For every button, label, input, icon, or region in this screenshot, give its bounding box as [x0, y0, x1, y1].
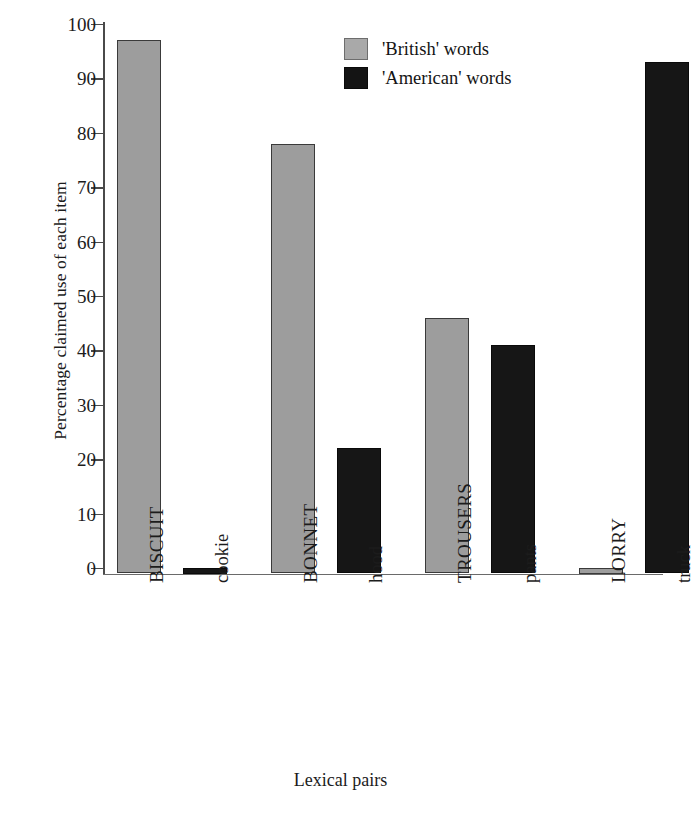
bar-pants [491, 345, 535, 574]
y-tick-label: 10 [77, 504, 96, 523]
legend-label-american: 'American' words [382, 68, 511, 89]
x-axis-title: Lexical pairs [0, 770, 681, 791]
bar-truck [645, 62, 689, 573]
bar-biscuit [117, 40, 161, 573]
y-tick-label: 0 [87, 559, 97, 578]
x-tick-label-biscuit: BISCUIT [147, 506, 166, 583]
legend-item-american: 'American' words [344, 67, 511, 89]
x-tick-label-trousers: TROUSERS [455, 483, 474, 583]
y-tick-label: 50 [77, 287, 96, 306]
y-axis-line [103, 22, 105, 575]
y-tick-label: 20 [77, 450, 96, 469]
x-tick-label-pants: pants [521, 544, 540, 583]
x-tick-label-truck: truck [675, 545, 694, 583]
y-tick-label: 40 [77, 341, 96, 360]
legend-swatch-british-icon [344, 38, 368, 60]
legend-swatch-american-icon [344, 67, 368, 89]
x-tick-label-hood: hood [367, 546, 386, 583]
x-tick-label-lorry: LORRY [609, 518, 628, 583]
plot-area: 0102030405060708090100 BISCUITcookieBONN… [103, 22, 663, 575]
x-tick-label-cookie: cookie [213, 534, 232, 583]
legend-item-british: 'British' words [344, 38, 511, 60]
y-tick-label: 100 [68, 15, 97, 34]
y-tick-label: 30 [77, 395, 96, 414]
chart-legend: 'British' words 'American' words [344, 38, 511, 96]
y-tick-label: 70 [77, 178, 96, 197]
y-tick-label: 80 [77, 123, 96, 142]
y-tick-label: 60 [77, 232, 96, 251]
y-axis-title: Percentage claimed use of each item [50, 101, 71, 521]
x-tick-label-bonnet: BONNET [301, 504, 320, 583]
legend-label-british: 'British' words [382, 39, 489, 60]
y-tick-label: 90 [77, 69, 96, 88]
